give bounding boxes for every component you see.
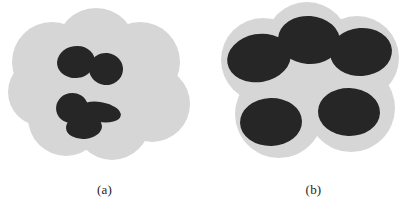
panel-b-caption: (b) (209, 182, 418, 198)
panel-b-illustration (209, 0, 418, 178)
figure-panel-b: (b) (209, 0, 418, 218)
figure-panel-a: (a) (0, 0, 209, 218)
panel-a-illustration (0, 0, 209, 178)
panel-a-caption: (a) (0, 182, 209, 198)
cloud-region (8, 8, 190, 160)
figure-root: (a) (b) (0, 0, 418, 218)
